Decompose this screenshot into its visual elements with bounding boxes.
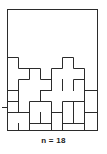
figure-caption: n = 18	[0, 136, 107, 146]
polyomino-figure: n = 18	[0, 0, 107, 154]
polyomino-tiling-svg	[0, 0, 107, 154]
